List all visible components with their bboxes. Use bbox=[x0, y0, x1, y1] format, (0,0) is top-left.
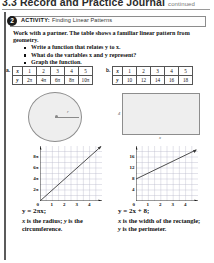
activity-label: ACTIVITY: bbox=[21, 17, 50, 23]
circle-figure: r bbox=[28, 92, 82, 142]
part-b-answer-post: is the perimeter. bbox=[121, 225, 167, 232]
activity-title: Finding Linear Patterns bbox=[52, 17, 112, 23]
part-a-graph: 2π 4π 6π 8π 0 1 2 3 4 bbox=[40, 146, 102, 201]
bullet-item: Write a function that relates y to x. bbox=[24, 44, 200, 52]
page-header-trailing: continued bbox=[168, 1, 195, 7]
x-tick: 0 bbox=[133, 202, 136, 207]
table-row: x 1 2 3 4 5 bbox=[13, 67, 93, 76]
radius-label: r bbox=[67, 109, 69, 114]
part-b-letter: b. bbox=[106, 67, 110, 73]
part-b-answer-mid: is the width of the rectangle; bbox=[121, 217, 200, 224]
x-tick: 2 bbox=[63, 202, 66, 207]
page-header: 3.3 Record and Practice Journal continue… bbox=[0, 0, 214, 8]
y-tick: 4π bbox=[33, 176, 38, 181]
table-cell: 4π bbox=[37, 76, 51, 85]
x-tick: 3 bbox=[76, 202, 79, 207]
rectangle-width-label: x bbox=[159, 135, 161, 140]
part-a-equation: y = 2πx; bbox=[22, 207, 46, 215]
table-header-x: x bbox=[113, 67, 123, 76]
table-cell: 12 bbox=[137, 76, 151, 85]
part-b-table: x 1 2 3 4 5 y 10 12 14 16 18 bbox=[112, 66, 193, 85]
x-tick: 3 bbox=[172, 202, 175, 207]
y-tick: 4 bbox=[132, 187, 135, 192]
x-tick: 4 bbox=[88, 202, 91, 207]
table-cell: 10 bbox=[123, 76, 137, 85]
y-tick: 16 bbox=[130, 154, 135, 159]
y-tick: 6π bbox=[33, 165, 38, 170]
table-cell: 16 bbox=[165, 76, 179, 85]
part-b-table-wrap: b. x 1 2 3 4 5 y 10 12 14 16 18 bbox=[112, 66, 193, 85]
activity-number-badge: 2 bbox=[7, 16, 17, 26]
radius-line bbox=[55, 117, 79, 118]
part-a-answer: x is the radius; y is the circumference. bbox=[22, 217, 106, 232]
table-cell: 2π bbox=[23, 76, 37, 85]
table-cell: 6π bbox=[51, 76, 65, 85]
y-tick: 2π bbox=[33, 187, 38, 192]
table-row: y 2π 4π 6π 8π 10π bbox=[13, 76, 93, 85]
header-rule bbox=[2, 9, 210, 10]
part-a-table-wrap: a. x 1 2 3 4 5 y 2π 4π 6π 8π 10π bbox=[12, 66, 93, 85]
table-cell: 2 bbox=[37, 67, 51, 76]
part-a-answer-mid: is the radius; bbox=[25, 217, 64, 224]
table-cell: 8π bbox=[65, 76, 79, 85]
table-cell: 1 bbox=[123, 67, 137, 76]
table-cell: 4 bbox=[65, 67, 79, 76]
part-b-answer: x is the width of the rectangle; y is th… bbox=[118, 217, 202, 232]
bullet-item: What do the variables x and y represent? bbox=[24, 52, 200, 60]
part-a-letter: a. bbox=[6, 67, 10, 73]
part-a-table: x 1 2 3 4 5 y 2π 4π 6π 8π 10π bbox=[12, 66, 93, 85]
x-tick: 0 bbox=[37, 202, 40, 207]
x-tick: 1 bbox=[147, 202, 150, 207]
page-header-title: 3.3 Record and Practice Journal bbox=[2, 0, 165, 8]
table-cell: 14 bbox=[151, 76, 165, 85]
y-tick: 8π bbox=[33, 154, 38, 159]
table-row: y 10 12 14 16 18 bbox=[113, 76, 193, 85]
table-cell: 10π bbox=[79, 76, 93, 85]
part-b-grid-svg bbox=[136, 146, 198, 201]
y-tick: 8 bbox=[132, 176, 135, 181]
table-header-y: y bbox=[13, 76, 23, 85]
part-a-grid-svg bbox=[40, 146, 102, 201]
part-b-y-axis-labels: 4 8 12 16 bbox=[122, 146, 136, 201]
table-cell: 18 bbox=[179, 76, 193, 85]
table-cell: 3 bbox=[151, 67, 165, 76]
table-cell: 4 bbox=[165, 67, 179, 76]
x-tick: 1 bbox=[51, 202, 54, 207]
table-cell: 2 bbox=[137, 67, 151, 76]
table-row: x 1 2 3 4 5 bbox=[113, 67, 193, 76]
rectangle-figure: x 4 bbox=[122, 93, 200, 135]
table-header-y: y bbox=[113, 76, 123, 85]
table-cell: 5 bbox=[79, 67, 93, 76]
table-cell: 5 bbox=[179, 67, 193, 76]
x-tick: 4 bbox=[184, 202, 187, 207]
part-b-equation: y = 2x + 8; bbox=[118, 207, 149, 215]
part-a-y-axis-labels: 2π 4π 6π 8π bbox=[26, 146, 40, 201]
part-a-x-axis-labels: 0 1 2 3 4 bbox=[40, 201, 102, 211]
table-header-x: x bbox=[13, 67, 23, 76]
y-tick: 12 bbox=[130, 165, 135, 170]
activity-bullet-list: Write a function that relates y to x. Wh… bbox=[24, 44, 200, 67]
rectangle-height-label: 4 bbox=[118, 111, 120, 116]
table-cell: 3 bbox=[51, 67, 65, 76]
part-b-graph: 4 8 12 16 0 1 2 3 4 bbox=[136, 146, 198, 201]
activity-intro: Work with a partner. The table shows a f… bbox=[13, 30, 199, 44]
table-cell: 1 bbox=[23, 67, 37, 76]
x-tick: 2 bbox=[159, 202, 162, 207]
